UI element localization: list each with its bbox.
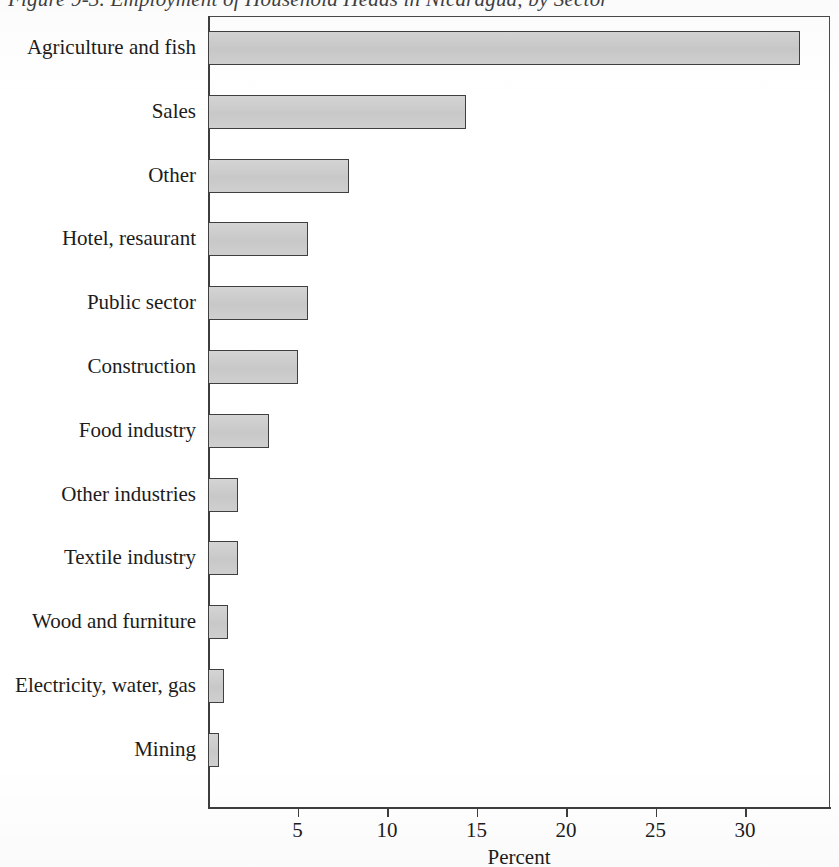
bar-fill-texture bbox=[209, 32, 799, 64]
x-tick-label: 30 bbox=[715, 818, 775, 843]
bar-textile-industry bbox=[208, 541, 238, 575]
x-axis-title: Percent bbox=[208, 845, 830, 867]
x-tick-label: 5 bbox=[268, 818, 328, 843]
bar-sales bbox=[208, 95, 466, 129]
x-tick-label: 20 bbox=[536, 818, 596, 843]
category-label: Public sector bbox=[0, 290, 196, 315]
bar-hotel-resaurant bbox=[208, 222, 308, 256]
x-tick-mark bbox=[298, 808, 300, 817]
category-label: Textile industry bbox=[0, 545, 196, 570]
category-label: Electricity, water, gas bbox=[0, 673, 196, 698]
bar-fill-texture bbox=[209, 96, 465, 128]
bar-food-industry bbox=[208, 414, 269, 448]
bar-wood-and-furniture bbox=[208, 605, 228, 639]
x-tick-mark bbox=[656, 808, 658, 817]
x-tick-mark bbox=[387, 808, 389, 817]
bar-agriculture-and-fish bbox=[208, 31, 800, 65]
category-label: Other bbox=[0, 163, 196, 188]
bar-public-sector bbox=[208, 286, 308, 320]
category-label: Mining bbox=[0, 737, 196, 762]
x-axis-line bbox=[208, 807, 831, 809]
category-label: Food industry bbox=[0, 418, 196, 443]
category-label: Agriculture and fish bbox=[0, 35, 196, 60]
bar-fill-texture bbox=[209, 734, 218, 766]
bar-fill-texture bbox=[209, 223, 307, 255]
bar-fill-texture bbox=[209, 479, 237, 511]
bar-other bbox=[208, 159, 349, 193]
bar-fill-texture bbox=[209, 670, 223, 702]
bar-fill-texture bbox=[209, 606, 227, 638]
bar-mining bbox=[208, 733, 219, 767]
figure-root: Figure 9-3. Employment of Household Head… bbox=[0, 0, 839, 867]
category-label: Other industries bbox=[0, 482, 196, 507]
x-tick-mark bbox=[477, 808, 479, 817]
plot-frame bbox=[208, 16, 830, 808]
bar-other-industries bbox=[208, 478, 238, 512]
x-tick-label: 15 bbox=[447, 818, 507, 843]
figure-title: Figure 9-3. Employment of Household Head… bbox=[8, 0, 833, 12]
x-tick-mark bbox=[566, 808, 568, 817]
x-tick-mark bbox=[745, 808, 747, 817]
category-label: Hotel, resaurant bbox=[0, 226, 196, 251]
bar-fill-texture bbox=[209, 160, 348, 192]
bar-construction bbox=[208, 350, 298, 384]
bar-fill-texture bbox=[209, 351, 297, 383]
category-label: Sales bbox=[0, 99, 196, 124]
category-label: Construction bbox=[0, 354, 196, 379]
bar-electricity-water-gas bbox=[208, 669, 224, 703]
x-tick-label: 25 bbox=[626, 818, 686, 843]
category-label: Wood and furniture bbox=[0, 609, 196, 634]
bar-fill-texture bbox=[209, 415, 268, 447]
bar-fill-texture bbox=[209, 287, 307, 319]
bar-fill-texture bbox=[209, 542, 237, 574]
x-tick-label: 10 bbox=[357, 818, 417, 843]
